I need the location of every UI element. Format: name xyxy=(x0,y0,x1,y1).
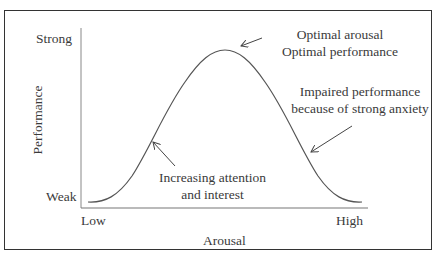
increasing-annotation: Increasing attention and interest xyxy=(145,169,280,203)
y-tick-weak: Weak xyxy=(46,188,76,205)
optimal-annotation: Optimal arousal Optimal performance xyxy=(280,26,400,60)
impaired-line1: Impaired performance xyxy=(285,83,435,100)
x-tick-low: Low xyxy=(81,212,106,229)
impaired-line2: because of strong anxiety xyxy=(285,100,435,117)
increasing-arrow xyxy=(153,142,175,166)
optimal-line2: Optimal performance xyxy=(280,43,400,60)
optimal-line1: Optimal arousal xyxy=(280,26,400,43)
y-tick-strong: Strong xyxy=(36,30,72,47)
increasing-line1: Increasing attention xyxy=(145,169,280,186)
y-axis-label: Performance xyxy=(30,86,46,155)
impaired-annotation: Impaired performance because of strong a… xyxy=(285,83,435,117)
x-tick-high: High xyxy=(336,212,363,229)
x-axis-label: Arousal xyxy=(203,232,246,249)
increasing-line2: and interest xyxy=(145,186,280,203)
impaired-arrow xyxy=(311,126,352,152)
optimal-arrow xyxy=(241,38,262,46)
